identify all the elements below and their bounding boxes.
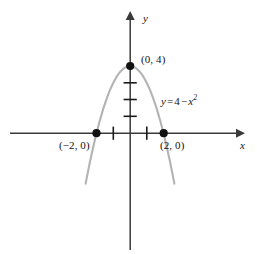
x-axis-arrowhead [236,129,245,138]
coordinate-plane [0,0,257,254]
point-left-intercept [92,129,100,137]
equation-label: y=4−x2 [161,94,197,107]
equation-minus-sign: − [180,95,188,107]
y-axis-label: y [143,13,148,24]
parabola-figure: (0, 4) (−2, 0) (2, 0) y=4−x2 y x [0,0,257,254]
x-axis-label: x [240,140,245,151]
left-intercept-label: (−2, 0) [59,140,90,151]
right-intercept-label: (2, 0) [160,140,184,151]
vertex-point-label: (0, 4) [141,54,165,65]
equation-exponent: 2 [193,93,197,102]
point-vertex-0-4 [126,62,134,70]
point-right-intercept [160,129,168,137]
y-axis-arrowhead [126,11,135,20]
